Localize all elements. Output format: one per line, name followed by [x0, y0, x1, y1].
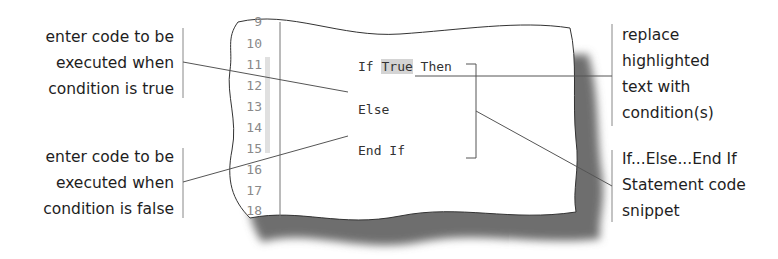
- change-bar: [265, 57, 270, 153]
- line-number: 9: [232, 14, 262, 29]
- line-number: 18: [232, 203, 262, 218]
- paper-excerpt: [229, 19, 577, 220]
- line-number: 15: [232, 141, 262, 156]
- code-line-end-if[interactable]: End If: [358, 143, 405, 158]
- line-number: 10: [232, 36, 262, 51]
- callout-snippet-label: If...Else...End If Statement code snippe…: [622, 146, 746, 224]
- line-number: 13: [232, 99, 262, 114]
- callout-false-branch: enter code to be executed when condition…: [43, 144, 174, 222]
- condition-placeholder[interactable]: True: [381, 59, 412, 74]
- line-number: 11: [232, 57, 262, 72]
- code-line-else[interactable]: Else: [358, 102, 389, 117]
- line-number: 12: [232, 78, 262, 93]
- callout-true-branch: enter code to be executed when condition…: [46, 24, 174, 102]
- then-keyword: Then: [413, 59, 452, 74]
- if-keyword: If: [358, 59, 381, 74]
- line-number: 14: [232, 120, 262, 135]
- code-line-if[interactable]: If True Then: [358, 59, 452, 74]
- line-number: 16: [232, 162, 262, 177]
- line-number: 17: [232, 183, 262, 198]
- callout-replace-condition: replace highlighted text with condition(…: [622, 22, 714, 126]
